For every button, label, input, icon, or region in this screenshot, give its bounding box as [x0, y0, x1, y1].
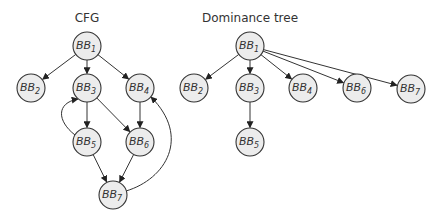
dominance-tree-node-bb5: BB5	[236, 128, 264, 156]
dominance-tree-node-bb4: BB4	[289, 74, 317, 102]
dominance-tree-node-bb6: BB6	[343, 74, 371, 102]
cfg-edge-bb1-to-bb4	[98, 55, 129, 79]
cfg-edge-bb3-to-bb6	[97, 98, 130, 132]
cfg-node-bb6: BB6	[126, 128, 154, 156]
dominance-tree-title: Dominance tree	[202, 11, 298, 25]
dominance-tree-node-bb1: BB1	[236, 32, 264, 60]
cfg-node-bb7: BB7	[99, 181, 127, 209]
cfg-edge-bb5-to-bb7	[93, 155, 106, 182]
cfg-edge-bb6-to-bb7	[120, 154, 134, 182]
cfg-node-bb3: BB3	[73, 74, 101, 102]
cfg-edge-bb5-to-bb3	[61, 99, 78, 135]
cfg-node-bb5: BB5	[73, 128, 101, 156]
diagram-canvas: CFG Dominance tree BB1BB2BB3BB4BB5BB6BB7…	[0, 0, 437, 222]
cfg-edge-bb1-to-bb2	[43, 54, 76, 79]
cfg-node-bb4: BB4	[126, 74, 154, 102]
dominance-tree-edge-bb1-to-bb2	[206, 54, 239, 79]
cfg-node-bb2: BB2	[17, 74, 45, 102]
cfg-title: CFG	[75, 11, 100, 25]
dominance-tree-node-bb7: BB7	[397, 75, 425, 103]
cfg-node-bb1: BB1	[73, 32, 101, 60]
dominance-tree-node-bb2: BB2	[180, 74, 208, 102]
dominance-tree-node-bb3: BB3	[236, 74, 264, 102]
dominance-tree-edge-bb1-to-bb7	[264, 50, 397, 86]
dominance-tree-edge-bb1-to-bb4	[261, 55, 292, 79]
